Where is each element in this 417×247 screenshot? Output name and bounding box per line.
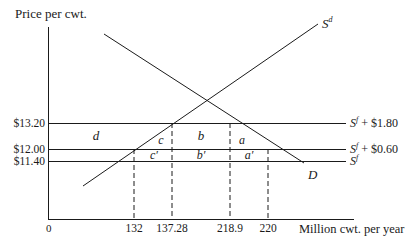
y-axis-label: Price per cwt. (15, 6, 87, 21)
y-tick-12-00: $12.00 (13, 143, 45, 155)
x-tick-137-28: 137.28 (156, 222, 188, 234)
x-tick-218-9: 218.9 (217, 222, 243, 234)
x-axis-label: Million cwt. per year (299, 222, 405, 236)
y-tick-11-40: $11.40 (14, 155, 45, 167)
demand-curve (104, 34, 304, 163)
x-tick-132: 132 (125, 222, 143, 234)
area-b: b (198, 128, 205, 143)
tariff-quota-diagram: Price per cwt. Million cwt. per year 0 $… (0, 0, 417, 247)
area-a: a (239, 133, 245, 147)
y-tick-13-20: $13.20 (13, 117, 45, 129)
x-tick-220: 220 (259, 222, 277, 234)
area-c: c (158, 133, 164, 147)
area-b-prime: b′ (197, 148, 206, 162)
demand-label: D (307, 167, 318, 182)
sd-label: Sd (322, 15, 334, 31)
area-a-prime: a′ (245, 148, 254, 162)
origin-label: 0 (46, 222, 52, 234)
sf-plus-180-label: Sf + $1.80 (350, 115, 398, 130)
area-c-prime: c′ (150, 148, 158, 162)
area-d: d (93, 128, 100, 143)
